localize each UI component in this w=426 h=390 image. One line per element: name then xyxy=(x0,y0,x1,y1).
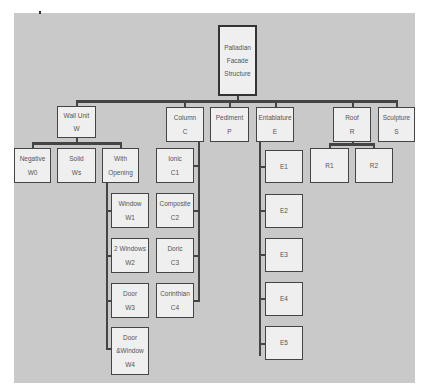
node-label: Sculpture xyxy=(383,114,410,121)
node-wall-unit: Wall Unit W xyxy=(57,106,96,138)
node-e2: E2 xyxy=(265,194,303,228)
connector xyxy=(229,100,231,107)
node-label: Entablature xyxy=(258,114,291,121)
node-code: C2 xyxy=(171,214,179,221)
node-code: Opening xyxy=(108,169,133,176)
stray-mark xyxy=(39,11,41,14)
node-code: E3 xyxy=(280,251,288,258)
connector xyxy=(106,183,108,349)
root-line-1: Palladian xyxy=(224,44,251,51)
node-code: R1 xyxy=(325,162,333,169)
node-sculpture: Sculpture S xyxy=(378,107,415,142)
node-column: Column C xyxy=(166,107,204,142)
connector xyxy=(194,165,199,167)
node-window: Window W1 xyxy=(111,193,149,228)
node-door: Door W3 xyxy=(111,283,149,318)
node-label: Pediment xyxy=(216,114,243,121)
node-code: P xyxy=(227,128,231,135)
node-with-opening: With Opening xyxy=(102,148,139,183)
connector xyxy=(275,100,277,107)
node-code: W4 xyxy=(125,361,135,368)
node-label: 2 Windows xyxy=(114,245,146,252)
node-label: Wall Unit xyxy=(64,112,90,119)
node-label: Ionic xyxy=(168,155,182,162)
connector xyxy=(194,300,199,302)
node-code: W3 xyxy=(125,304,135,311)
node-code: C xyxy=(183,128,188,135)
node-2-windows: 2 Windows W2 xyxy=(111,238,149,273)
node-composite: Composite C2 xyxy=(156,193,194,228)
node-code: E1 xyxy=(280,163,288,170)
node-roof: Roof R xyxy=(333,107,371,142)
node-code: W2 xyxy=(125,259,135,266)
connector xyxy=(184,100,186,107)
node-door-and-window: Door &Window W4 xyxy=(111,327,149,375)
node-e5: E5 xyxy=(265,326,303,360)
connector xyxy=(194,255,199,257)
node-r2: R2 xyxy=(355,148,393,183)
node-label: Solid xyxy=(69,155,83,162)
node-code: Ws xyxy=(72,169,81,176)
node-e1: E1 xyxy=(265,150,303,183)
connector xyxy=(32,142,122,145)
node-code: W xyxy=(73,125,79,132)
node-code: W0 xyxy=(28,169,38,176)
node-label: Roof xyxy=(345,114,359,121)
node-r1: R1 xyxy=(310,148,349,183)
connector xyxy=(259,142,261,356)
node-code: E5 xyxy=(280,339,288,346)
node-code: C4 xyxy=(171,304,179,311)
node-label: Column xyxy=(174,114,196,121)
node-e3: E3 xyxy=(265,238,303,272)
node-negative: Negative W0 xyxy=(14,148,51,183)
root-line-3: Structure xyxy=(224,70,250,77)
node-label: Door xyxy=(123,334,137,341)
node-code: E4 xyxy=(280,295,288,302)
node-code: E xyxy=(273,128,277,135)
root-line-2: Facade xyxy=(227,57,249,64)
node-e4: E4 xyxy=(265,282,303,316)
node-label: Door xyxy=(123,290,137,297)
node-code: C3 xyxy=(171,259,179,266)
connector xyxy=(76,100,398,103)
node-corinthian: Corinthian C4 xyxy=(156,283,194,318)
connector xyxy=(352,100,354,107)
node-solid: Solid Ws xyxy=(57,148,96,183)
node-root-palladian-facade: Palladian Facade Structure xyxy=(218,25,257,96)
node-code: E2 xyxy=(280,207,288,214)
node-ionic: Ionic C1 xyxy=(156,148,194,183)
node-entablature: Entablature E xyxy=(256,107,294,142)
diagram-background xyxy=(14,13,415,383)
node-code: R2 xyxy=(370,162,378,169)
node-label: Window xyxy=(118,200,141,207)
node-label: Negative xyxy=(20,155,46,162)
node-code: R xyxy=(350,128,355,135)
connector xyxy=(194,210,199,212)
node-label: Composite xyxy=(159,200,190,207)
node-code: W1 xyxy=(125,214,135,221)
connector xyxy=(396,100,398,107)
node-code: C1 xyxy=(171,169,179,176)
node-label: Doric xyxy=(167,245,182,252)
node-code: S xyxy=(394,128,398,135)
connector xyxy=(329,143,375,146)
node-label: Corinthian xyxy=(160,290,190,297)
node-label: With xyxy=(114,155,127,162)
node-label-2: &Window xyxy=(116,347,143,354)
node-pediment: Pediment P xyxy=(210,107,249,142)
node-doric: Doric C3 xyxy=(156,238,194,273)
